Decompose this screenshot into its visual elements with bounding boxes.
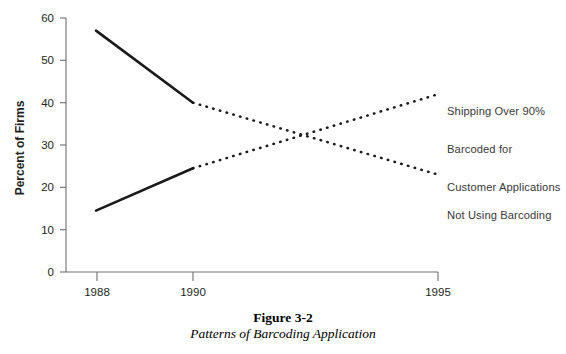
y-tick-label-60: 60 xyxy=(41,12,54,24)
series-not-using-barcoding-dotted-segment xyxy=(193,103,438,175)
x-tick-label-1990: 1990 xyxy=(180,286,206,298)
y-axis-title: Percent of Firms xyxy=(13,100,27,195)
y-tick-label-10: 10 xyxy=(41,224,54,236)
annotation-upper-line-2: Barcoded for xyxy=(447,143,560,156)
x-tick-label-1995: 1995 xyxy=(425,286,451,298)
figure-caption: Figure 3-2 Patterns of Barcoding Applica… xyxy=(0,310,566,342)
figure-caption-title: Figure 3-2 xyxy=(0,310,566,326)
figure-caption-subtitle: Patterns of Barcoding Application xyxy=(0,326,566,342)
y-tick-label-0: 0 xyxy=(48,266,54,278)
y-tick-label-50: 50 xyxy=(41,54,54,66)
y-tick-label-30: 30 xyxy=(41,139,54,151)
y-axis-ticks xyxy=(60,18,66,272)
annotation-not-using-barcoding: Not Using Barcoding xyxy=(447,184,552,247)
series-shipping-over-90-barcoded-solid-segment xyxy=(96,168,193,210)
annotation-lower-line-1: Not Using Barcoding xyxy=(447,209,552,222)
figure-container: 0 10 20 30 40 50 60 Percent of Firms 198… xyxy=(0,0,566,354)
series-shipping-over-90-barcoded xyxy=(96,94,438,210)
y-tick-label-20: 20 xyxy=(41,181,54,193)
series-not-using-barcoding xyxy=(96,31,438,175)
series-shipping-over-90-barcoded-dotted-segment xyxy=(193,94,438,168)
x-tick-label-1988: 1988 xyxy=(84,286,110,298)
annotation-upper-line-1: Shipping Over 90% xyxy=(447,105,560,118)
series-not-using-barcoding-solid-segment xyxy=(96,31,193,103)
x-axis-ticks xyxy=(97,272,438,281)
y-tick-label-40: 40 xyxy=(41,97,54,109)
